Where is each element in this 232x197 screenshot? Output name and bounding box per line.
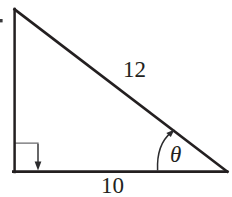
- hypotenuse-length-label: 12: [123, 58, 146, 81]
- dot-mark-icon: [0, 19, 3, 22]
- triangle-diagram-svg: [0, 0, 232, 197]
- right-angle-square-icon: [15, 143, 38, 165]
- down-arrow-icon-head: [35, 162, 42, 171]
- triangle-figure: 12 10 θ: [0, 0, 232, 197]
- angle-theta-label: θ: [170, 143, 181, 166]
- triangle-hypotenuse: [15, 9, 228, 171]
- base-length-label: 10: [101, 174, 124, 197]
